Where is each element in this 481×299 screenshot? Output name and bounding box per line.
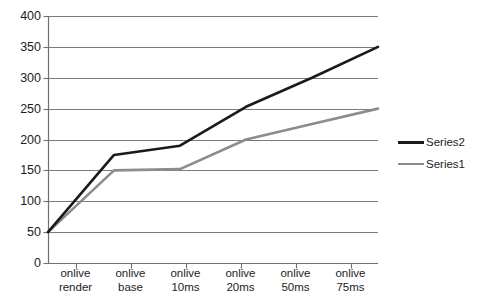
y-axis-tick-label: 150 [0, 164, 41, 176]
y-axis-tick-label: 100 [0, 195, 41, 207]
y-axis-tick-label: 350 [0, 41, 41, 53]
x-axis-category-line2: 75ms [323, 280, 378, 294]
y-axis-tick-label: 50 [0, 226, 41, 238]
legend-item[interactable]: Series2 [398, 131, 481, 153]
legend-swatch-line-icon [398, 141, 424, 144]
x-axis-category-line1: onlive [335, 267, 365, 279]
axis-lines [44, 16, 379, 269]
x-axis-category-label: onliverender [48, 266, 103, 299]
y-axis-tick-label: 300 [0, 72, 41, 84]
chart-legend: Series2Series1 [398, 131, 481, 175]
x-axis-category-label: onlive10ms [158, 266, 213, 299]
y-axis-tick-label: 200 [0, 134, 41, 146]
x-axis: onliverenderonlivebaseonlive10msonlive20… [48, 266, 378, 299]
x-axis-category-line2: 20ms [213, 280, 268, 294]
legend-item-label: Series1 [426, 158, 465, 170]
legend-item[interactable]: Series1 [398, 153, 481, 175]
y-axis: 400350300250200150100500 [0, 0, 41, 299]
x-axis-category-line2: base [103, 280, 158, 294]
legend-swatch-line-icon [398, 163, 424, 165]
x-axis-category-line2: 10ms [158, 280, 213, 294]
x-axis-category-line2: 50ms [268, 280, 323, 294]
gridlines [48, 17, 378, 264]
x-axis-category-label: onlivebase [103, 266, 158, 299]
x-axis-category-label: onlive75ms [323, 266, 378, 299]
y-axis-tick-label: 400 [0, 10, 41, 22]
x-axis-category-label: onlive20ms [213, 266, 268, 299]
x-axis-category-line1: onlive [60, 267, 90, 279]
x-axis-category-label: onlive50ms [268, 266, 323, 299]
y-axis-tick-label: 0 [0, 257, 41, 269]
line-chart: 400350300250200150100500 onliverenderonl… [0, 0, 481, 299]
y-axis-tick-label: 250 [0, 103, 41, 115]
x-axis-category-line1: onlive [280, 267, 310, 279]
legend-item-label: Series2 [426, 136, 465, 148]
series-line-series2 [48, 47, 378, 232]
x-axis-category-line1: onlive [225, 267, 255, 279]
x-axis-category-line1: onlive [115, 267, 145, 279]
x-axis-category-line2: render [48, 280, 103, 294]
x-axis-category-line1: onlive [170, 267, 200, 279]
